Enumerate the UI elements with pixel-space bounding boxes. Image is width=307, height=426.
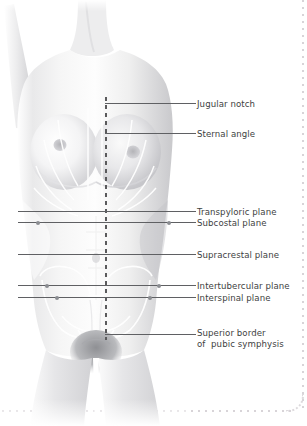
plane-marker-dot-intertubercular-1 — [157, 284, 161, 288]
label-subcostal: Subcostal plane — [197, 218, 267, 229]
leader-line-sternal-angle — [105, 133, 196, 134]
plane-marker-dot-subcostal-0 — [36, 221, 40, 225]
leader-line-supracrestal — [18, 254, 196, 255]
label-transpyloric: Transpyloric plane — [197, 207, 277, 218]
leader-line-interspinal — [18, 297, 196, 298]
leader-line-transpyloric — [18, 211, 196, 212]
anatomical-planes-figure: Jugular notchSternal angleTranspyloric p… — [0, 0, 307, 426]
label-sternal-angle: Sternal angle — [197, 129, 255, 140]
plane-marker-dot-intertubercular-0 — [45, 284, 49, 288]
leader-line-jugular-notch — [105, 103, 196, 104]
label-superior-border-pubic-symphysis: Superior border of pubic symphysis — [197, 328, 284, 350]
label-intertubercular: Intertubercular plane — [197, 281, 290, 292]
label-supracrestal: Supracrestal plane — [197, 250, 279, 261]
plane-marker-dot-interspinal-0 — [55, 296, 59, 300]
plane-marker-dot-interspinal-1 — [148, 296, 152, 300]
label-jugular-notch: Jugular notch — [197, 99, 255, 110]
plane-marker-dot-subcostal-1 — [167, 221, 171, 225]
leader-line-superior-border-pubic-symphysis — [105, 334, 196, 335]
label-interspinal: Interspinal plane — [197, 293, 271, 304]
